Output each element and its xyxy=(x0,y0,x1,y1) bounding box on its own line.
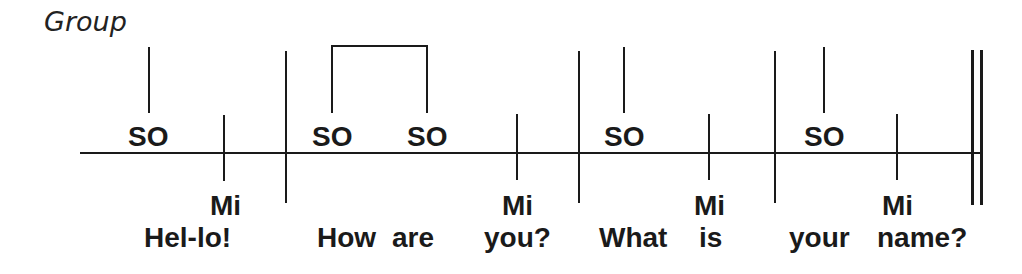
mi-syllable: Mi xyxy=(210,192,241,220)
mi-syllable: Mi xyxy=(882,192,913,220)
lyric-word: are xyxy=(392,224,434,252)
so-note-stem xyxy=(623,47,625,113)
mi-syllable: Mi xyxy=(694,192,725,220)
mi-syllable: Mi xyxy=(502,192,533,220)
so-syllable: SO xyxy=(804,123,844,151)
so-note-stem xyxy=(426,45,428,113)
mi-note-stem xyxy=(708,114,710,180)
mi-note-stem xyxy=(896,114,898,180)
double-bar-line-left xyxy=(971,50,974,205)
double-bar-line-right xyxy=(980,50,983,205)
diagram-title: Group xyxy=(44,6,127,37)
mi-note-stem xyxy=(223,115,225,181)
staff-line xyxy=(80,152,982,154)
so-note-stem xyxy=(331,45,333,113)
lyric-word: your xyxy=(789,224,850,252)
lyric-word: What xyxy=(599,224,667,252)
lyric-word: Hel-lo! xyxy=(144,224,231,252)
lyric-word: How xyxy=(317,224,376,252)
lyric-word: name? xyxy=(877,224,967,252)
lyric-word: is xyxy=(699,224,722,252)
bar-line xyxy=(578,51,580,203)
so-syllable: SO xyxy=(407,123,447,151)
so-note-stem xyxy=(148,47,150,113)
bar-line xyxy=(285,51,287,203)
so-syllable: SO xyxy=(604,123,644,151)
beam-bracket-top xyxy=(331,45,428,47)
bar-line xyxy=(774,51,776,203)
so-syllable: SO xyxy=(128,123,168,151)
rhythm-diagram: Group SO Mi Hel-lo! SO SO Mi How are you… xyxy=(0,0,1022,274)
so-note-stem xyxy=(823,47,825,113)
mi-note-stem xyxy=(516,114,518,180)
so-syllable: SO xyxy=(312,123,352,151)
lyric-word: you? xyxy=(484,224,551,252)
